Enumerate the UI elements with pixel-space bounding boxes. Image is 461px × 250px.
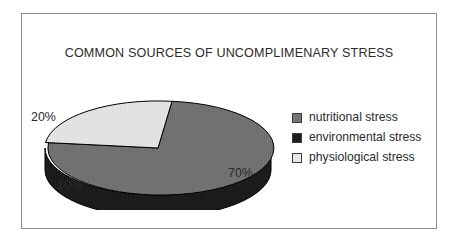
- legend-label-nutritional-stress: nutritional stress: [309, 111, 398, 123]
- pie-svg: [38, 90, 278, 210]
- legend-swatch-environmental-stress: [292, 133, 302, 143]
- pie-value-label-environmental-stress: 10%: [57, 178, 82, 192]
- legend-label-physiological-stress: physiological stress: [309, 151, 415, 163]
- chart-title: COMMON SOURCES OF UNCOMPLIMENARY STRESS: [21, 46, 437, 60]
- chart-legend: nutritional stress environmental stress …: [292, 108, 432, 168]
- pie-value-label-physiological-stress: 20%: [31, 110, 56, 124]
- legend-item-environmental-stress: environmental stress: [292, 128, 432, 147]
- legend-item-nutritional-stress: nutritional stress: [292, 108, 432, 127]
- legend-item-physiological-stress: physiological stress: [292, 148, 432, 167]
- pie-graphic: [38, 90, 278, 210]
- pie-slice-physiological-stress: [46, 101, 172, 148]
- legend-label-environmental-stress: environmental stress: [309, 131, 421, 143]
- legend-swatch-nutritional-stress: [292, 113, 302, 123]
- legend-swatch-physiological-stress: [292, 153, 302, 163]
- pie-chart-figure: COMMON SOURCES OF UNCOMPLIMENARY STRESS: [0, 0, 461, 250]
- pie-value-label-nutritional-stress: 70%: [228, 166, 253, 180]
